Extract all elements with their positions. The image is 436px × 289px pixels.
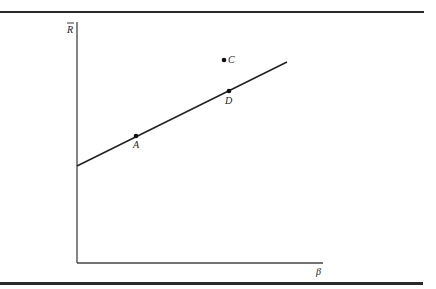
point-c-label: C bbox=[228, 54, 235, 65]
point-a-label: A bbox=[132, 139, 140, 150]
market-line bbox=[77, 62, 287, 166]
point-d bbox=[227, 89, 232, 94]
point-d-label: D bbox=[224, 95, 233, 106]
y-axis-label: R bbox=[66, 24, 73, 35]
point-a bbox=[134, 134, 139, 139]
point-c bbox=[222, 58, 227, 63]
x-axis-label: β bbox=[315, 266, 321, 277]
diagram: R β A D C bbox=[0, 0, 436, 289]
